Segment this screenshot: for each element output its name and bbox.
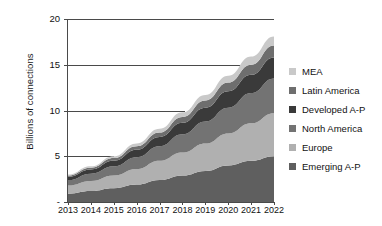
legend-label: Latin America xyxy=(302,85,360,96)
legend-label: Emerging A-P xyxy=(302,161,361,172)
x-axis-tick xyxy=(228,202,229,205)
legend-swatch-icon xyxy=(289,87,296,94)
x-axis-label: 2016 xyxy=(125,205,149,215)
legend-item[interactable]: North America xyxy=(289,119,365,138)
legend-item[interactable]: Emerging A-P xyxy=(289,157,365,176)
legend-label: Developed A-P xyxy=(302,104,365,115)
legend-label: North America xyxy=(302,123,362,134)
x-axis-tick xyxy=(182,202,183,205)
legend-swatch-icon xyxy=(289,125,296,132)
x-axis-label: 2019 xyxy=(193,205,217,215)
legend-item[interactable]: Developed A-P xyxy=(289,100,365,119)
legend-swatch-icon xyxy=(289,68,296,75)
x-axis-tick xyxy=(114,202,115,205)
x-axis-tick xyxy=(205,202,206,205)
x-axis-tick xyxy=(251,202,252,205)
legend-swatch-icon xyxy=(289,144,296,151)
legend-swatch-icon xyxy=(289,163,296,170)
x-axis-label: 2015 xyxy=(102,205,126,215)
x-axis-label: 2014 xyxy=(79,205,103,215)
chart-legend: MEALatin AmericaDeveloped A-PNorth Ameri… xyxy=(289,62,365,176)
legend-item[interactable]: MEA xyxy=(289,62,365,81)
x-axis-tick xyxy=(137,202,138,205)
x-axis-label: 2022 xyxy=(262,205,286,215)
x-axis-tick xyxy=(68,202,69,205)
x-axis-tick xyxy=(274,202,275,205)
chart-container: Billions of connections -5101520 2013201… xyxy=(0,0,382,226)
x-axis-tick xyxy=(160,202,161,205)
x-axis-label: 2020 xyxy=(216,205,240,215)
x-axis-label: 2018 xyxy=(170,205,194,215)
legend-label: Europe xyxy=(302,142,333,153)
legend-swatch-icon xyxy=(289,106,296,113)
x-axis-tick xyxy=(91,202,92,205)
legend-label: MEA xyxy=(302,66,323,77)
x-axis-label: 2013 xyxy=(56,205,80,215)
legend-item[interactable]: Latin America xyxy=(289,81,365,100)
x-axis-label: 2021 xyxy=(239,205,263,215)
x-axis-label: 2017 xyxy=(148,205,172,215)
legend-item[interactable]: Europe xyxy=(289,138,365,157)
